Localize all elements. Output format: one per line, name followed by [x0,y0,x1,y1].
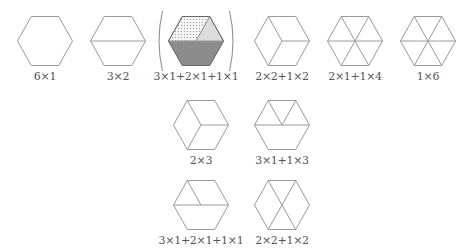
hex-2x3 [174,101,229,150]
hex-3x1-2x1-1x1 [159,11,233,71]
hex-6x1 [18,17,73,66]
hexagon-label: 2×2+1×2 [255,234,309,247]
right-bracket [230,11,234,71]
hex-2x2-1x2-b [255,181,310,230]
hexagon-label: 3×1+2×1+1×1 [159,234,244,247]
hex-3x1-2x1-1x1-b [174,181,229,230]
hexagon-label: 2×2+1×2 [255,70,309,83]
hex-2x1-1x4 [328,17,383,66]
hex-3x2 [91,17,146,66]
hexagon-label: 3×1+2×1+1×1 [154,70,239,83]
hexagon-label: 2×1+1×4 [328,70,382,83]
hexagon-label: 3×1+1×3 [255,154,309,167]
left-bracket [159,11,163,71]
hexagon-label: 1×6 [417,70,439,83]
hex-2x2-1x2 [255,17,310,66]
hexagon-label: 2×3 [190,154,212,167]
hexagon-partitions-figure [0,0,465,251]
hex-1x6 [401,17,456,66]
hexagon-label: 3×2 [107,70,129,83]
hexagon-label: 6×1 [34,70,56,83]
hex-3x1-1x3 [255,101,310,150]
